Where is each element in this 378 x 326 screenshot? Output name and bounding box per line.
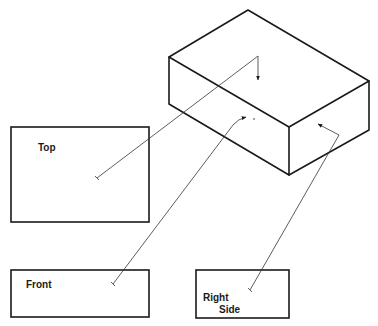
right-view-label-line2: Side xyxy=(219,304,241,315)
projection-diagram: Top Front Right Side xyxy=(0,0,378,326)
top-view-leader xyxy=(95,56,258,180)
right-view-leader xyxy=(248,124,339,292)
box-right-face xyxy=(289,81,369,175)
front-view-rect xyxy=(11,270,149,317)
front-view-label: Front xyxy=(26,279,52,290)
box-top-face xyxy=(169,10,369,127)
isometric-box xyxy=(169,10,369,175)
front-face-dot xyxy=(253,118,255,120)
top-view-label: Top xyxy=(38,142,56,153)
top-view-rect xyxy=(11,127,149,222)
right-view-label-line1: Right xyxy=(203,292,229,303)
